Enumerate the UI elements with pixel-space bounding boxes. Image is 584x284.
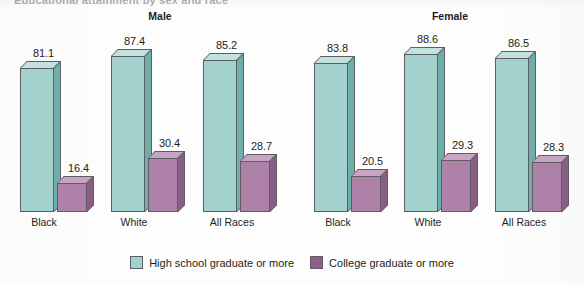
legend-item-high-school[interactable]: High school graduate or more <box>130 256 294 269</box>
value-label-female-black-hs: 83.8 <box>327 42 348 54</box>
bar-side-face <box>381 169 388 212</box>
bar-male-white-hs <box>111 56 145 212</box>
bar-front-face <box>148 158 178 212</box>
bar-front-face <box>404 54 438 212</box>
value-label-male-all-races-hs: 85.2 <box>216 39 237 51</box>
bar-front-face <box>203 60 237 212</box>
value-label-female-all-races-college: 28.3 <box>543 141 564 153</box>
bar-male-black-hs <box>20 68 54 212</box>
bar-side-face <box>562 155 569 212</box>
legend-label-high-school: High school graduate or more <box>149 257 294 269</box>
category-label-female-all-races: All Races <box>502 216 546 228</box>
value-label-female-all-races-hs: 86.5 <box>508 37 529 49</box>
bar-female-white-college <box>441 160 471 212</box>
bar-male-white-college <box>148 158 178 212</box>
bar-male-black-college <box>57 183 87 212</box>
bar-side-face <box>471 153 478 212</box>
bar-front-face <box>495 58 529 212</box>
bar-male-all-races-college <box>240 161 270 212</box>
value-label-male-black-college: 16.4 <box>68 162 89 174</box>
value-label-female-black-college: 20.5 <box>362 155 383 167</box>
category-label-female-black: Black <box>325 216 351 228</box>
bar-front-face <box>532 162 562 212</box>
plot-area: 81.1Black16.487.4White30.485.2All Races2… <box>0 0 584 232</box>
chart-legend: High school graduate or more College gra… <box>0 256 584 269</box>
bar-side-face <box>178 151 185 212</box>
legend-item-college[interactable]: College graduate or more <box>310 256 454 269</box>
bar-front-face <box>441 160 471 212</box>
legend-label-college: College graduate or more <box>329 257 454 269</box>
category-label-male-white: White <box>121 216 148 228</box>
value-label-female-white-college: 29.3 <box>452 139 473 151</box>
value-label-male-all-races-college: 28.7 <box>251 140 272 152</box>
bar-front-face <box>314 63 348 212</box>
bar-female-all-races-college <box>532 162 562 212</box>
value-label-male-black-hs: 81.1 <box>33 47 54 59</box>
value-label-female-white-hs: 88.6 <box>417 33 438 45</box>
bar-front-face <box>111 56 145 212</box>
bar-female-black-hs <box>314 63 348 212</box>
chart-page: Educational attainment by sex and race M… <box>0 0 584 284</box>
bar-female-black-college <box>351 176 381 212</box>
category-label-male-all-races: All Races <box>210 216 254 228</box>
value-label-male-white-hs: 87.4 <box>124 35 145 47</box>
bar-front-face <box>351 176 381 212</box>
category-label-female-white: White <box>415 216 442 228</box>
bar-front-face <box>240 161 270 212</box>
value-label-male-white-college: 30.4 <box>159 137 180 149</box>
category-label-male-black: Black <box>31 216 57 228</box>
bar-side-face <box>270 154 277 212</box>
bar-female-all-races-hs <box>495 58 529 212</box>
legend-swatch-icon-high-school <box>130 256 143 269</box>
bar-side-face <box>87 176 94 212</box>
legend-swatch-icon-college <box>310 256 323 269</box>
bar-male-all-races-hs <box>203 60 237 212</box>
bar-front-face <box>20 68 54 212</box>
bar-female-white-hs <box>404 54 438 212</box>
bar-front-face <box>57 183 87 212</box>
